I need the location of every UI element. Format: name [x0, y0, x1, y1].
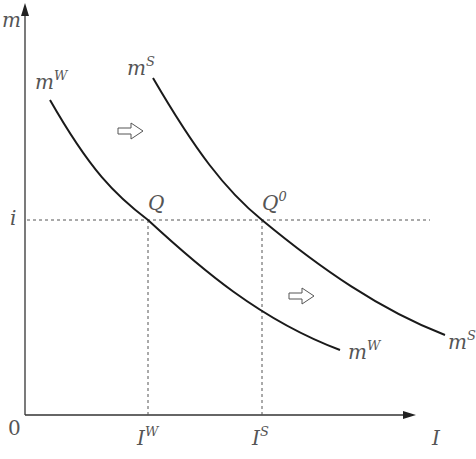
curve-ms-label-top: mS: [127, 58, 155, 78]
label-sup: 0: [278, 189, 286, 204]
y-axis-label: m: [2, 10, 21, 30]
shift-arrow-icon: [118, 123, 143, 139]
label-base: I: [252, 426, 260, 450]
label-base: Q: [262, 191, 278, 215]
label-sup: W: [54, 68, 67, 83]
point-q0-label: Q0: [262, 193, 287, 213]
label-sup: S: [260, 424, 269, 439]
x-axis-label: I: [432, 428, 440, 448]
curve-mw: [50, 100, 340, 350]
label-base: m: [448, 330, 467, 354]
label-base: Q: [148, 191, 164, 215]
label-base: m: [348, 340, 367, 364]
point-q-label: Q: [148, 193, 164, 213]
shift-arrow-icon: [289, 288, 314, 304]
label-base: m: [35, 70, 54, 94]
x-axis-arrow-icon: [403, 411, 416, 419]
label-sup: W: [145, 424, 158, 439]
x-tick-is: IS: [252, 428, 269, 448]
curve-ms-label-end: mS: [448, 332, 476, 352]
label-sup: W: [367, 338, 380, 353]
x-tick-iw: IW: [137, 428, 158, 448]
y-tick-i: i: [10, 208, 16, 228]
origin-label: 0: [8, 418, 21, 438]
curve-mw-label-top: mW: [35, 72, 67, 92]
label-base: m: [127, 56, 146, 80]
label-base: I: [137, 426, 145, 450]
label-sup: S: [467, 328, 476, 343]
curve-mw-label-end: mW: [348, 342, 380, 362]
label-sup: S: [146, 54, 155, 69]
y-axis-arrow-icon: [21, 3, 29, 16]
